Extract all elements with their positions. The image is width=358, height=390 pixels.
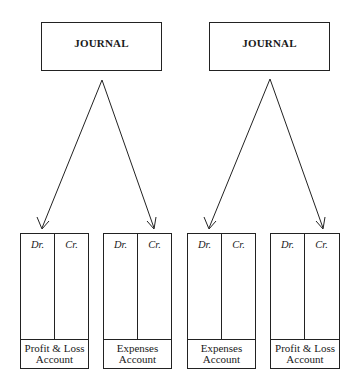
account-box-expenses-left: Dr. Cr. Expenses Account — [103, 233, 172, 369]
credit-column: Cr. — [138, 234, 171, 339]
account-box-profit-loss-right: Dr. Cr. Profit & Loss Account — [270, 233, 340, 369]
arrowhead-icon — [316, 217, 325, 229]
account-suffix: Account — [271, 354, 339, 365]
credit-column: Cr. — [55, 234, 88, 339]
account-suffix: Account — [21, 354, 88, 365]
debit-column: Dr. — [104, 234, 138, 339]
account-label: Profit & Loss Account — [271, 339, 339, 368]
account-suffix: Account — [104, 354, 171, 365]
arrow-journal-to-expenses-right — [209, 79, 270, 228]
account-suffix: Account — [188, 354, 255, 365]
account-label: Expenses Account — [104, 339, 171, 368]
arrow-journal-to-pl-left — [42, 80, 102, 228]
journal-label: JOURNAL — [74, 37, 129, 49]
debit-column: Dr. — [188, 234, 222, 339]
arrow-journal-to-expenses-left — [102, 80, 154, 228]
debit-column: Dr. — [271, 234, 305, 339]
arrow-journal-to-pl-right — [270, 79, 323, 228]
account-box-profit-loss-left: Dr. Cr. Profit & Loss Account — [20, 233, 89, 369]
debit-column: Dr. — [21, 234, 55, 339]
account-label: Expenses Account — [188, 339, 255, 368]
credit-column: Cr. — [222, 234, 255, 339]
journal-box-left: JOURNAL — [41, 22, 162, 71]
journal-box-right: JOURNAL — [209, 22, 330, 71]
arrowhead-icon — [147, 217, 156, 229]
account-label: Profit & Loss Account — [21, 339, 88, 368]
arrowhead-icon — [204, 217, 216, 229]
journal-label: JOURNAL — [242, 37, 297, 49]
account-box-expenses-right: Dr. Cr. Expenses Account — [187, 233, 256, 369]
arrowhead-icon — [37, 217, 49, 229]
credit-column: Cr. — [305, 234, 338, 339]
